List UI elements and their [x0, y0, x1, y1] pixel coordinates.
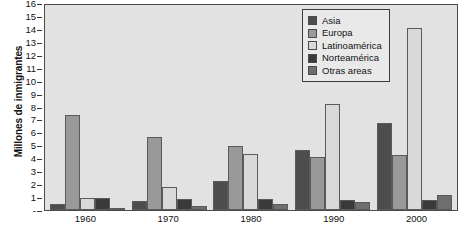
bar[interactable] — [273, 204, 288, 210]
bar[interactable] — [65, 115, 80, 210]
bar-group — [132, 5, 207, 210]
y-tick-mark — [37, 185, 42, 186]
legend-item-label: Otras areas — [322, 66, 372, 76]
bar[interactable] — [228, 146, 243, 210]
bar[interactable] — [177, 199, 192, 210]
y-tick-mark — [37, 172, 42, 173]
bar-groups — [45, 5, 457, 210]
y-tick-label: 9 — [18, 90, 36, 100]
y-tick-label: 4 — [18, 155, 36, 165]
chart-container: Millones de inmigrantes -123456789101112… — [0, 0, 463, 243]
y-tick-label: 15 — [18, 12, 36, 22]
bar[interactable] — [355, 202, 370, 210]
y-tick-label: 11 — [18, 64, 36, 74]
y-tick-mark — [37, 146, 42, 147]
legend-item-label: Norteamérica — [322, 53, 379, 63]
y-tick-label: 13 — [18, 38, 36, 48]
bar[interactable] — [110, 208, 125, 210]
bar[interactable] — [325, 104, 340, 210]
bar-group — [50, 5, 125, 210]
x-tick-label: 2000 — [382, 213, 452, 224]
y-tick-mark — [37, 82, 42, 83]
bar[interactable] — [295, 150, 310, 210]
bar[interactable] — [80, 198, 95, 210]
legend-item[interactable]: Norteamérica — [308, 52, 382, 64]
y-tick-mark — [37, 108, 42, 109]
y-tick-label: 5 — [18, 142, 36, 152]
legend-swatch-icon — [308, 41, 317, 50]
bar[interactable] — [437, 195, 452, 210]
legend-item[interactable]: Europa — [308, 27, 382, 39]
y-tick-label: 12 — [18, 51, 36, 61]
y-tick-label: 3 — [18, 167, 36, 177]
y-tick-label: 7 — [18, 116, 36, 126]
y-tick-mark — [37, 43, 42, 44]
legend-item-label: Europa — [322, 28, 353, 38]
bar[interactable] — [95, 198, 110, 210]
bar[interactable] — [213, 181, 228, 210]
bar[interactable] — [162, 187, 177, 210]
bar[interactable] — [407, 28, 422, 210]
bar[interactable] — [377, 123, 392, 210]
legend-item[interactable]: Asia — [308, 15, 382, 27]
y-tick-label: 16 — [18, 0, 36, 9]
legend: AsiaEuropaLatinoaméricaNorteaméricaOtras… — [302, 9, 390, 82]
bar[interactable] — [258, 199, 273, 210]
y-tick-mark — [37, 56, 42, 57]
y-axis-labels: -12345678910111213141516 — [18, 0, 42, 243]
bar[interactable] — [147, 137, 162, 210]
y-tick-label: - — [18, 206, 36, 216]
y-tick-label: 8 — [18, 103, 36, 113]
x-tick-label: 1990 — [299, 213, 369, 224]
bar[interactable] — [392, 155, 407, 210]
y-tick-mark — [37, 17, 42, 18]
y-tick-label: 10 — [18, 77, 36, 87]
y-tick-label: 6 — [18, 129, 36, 139]
y-tick-label: 2 — [18, 180, 36, 190]
legend-swatch-icon — [308, 16, 317, 25]
x-tick-label: 1970 — [133, 213, 203, 224]
x-axis-labels: 19601970198019902000 — [44, 213, 458, 233]
bar-group — [213, 5, 288, 210]
y-tick-label: 14 — [18, 25, 36, 35]
legend-item-label: Latinoamérica — [322, 41, 382, 51]
x-tick-label: 1980 — [216, 213, 286, 224]
y-tick-mark — [37, 120, 42, 121]
y-tick-label: 1 — [18, 193, 36, 203]
bar[interactable] — [192, 206, 207, 210]
y-tick-mark — [37, 4, 42, 5]
bar[interactable] — [422, 200, 437, 210]
y-tick-mark — [37, 133, 42, 134]
legend-item[interactable]: Latinoamérica — [308, 40, 382, 52]
legend-item[interactable]: Otras areas — [308, 65, 382, 77]
legend-swatch-icon — [308, 66, 317, 75]
bar[interactable] — [340, 200, 355, 210]
legend-swatch-icon — [308, 54, 317, 63]
y-tick-mark — [37, 198, 42, 199]
y-tick-mark — [37, 211, 42, 212]
legend-swatch-icon — [308, 29, 317, 38]
x-tick-label: 1960 — [50, 213, 120, 224]
y-tick-mark — [37, 30, 42, 31]
bar[interactable] — [310, 157, 325, 210]
bar[interactable] — [132, 201, 147, 210]
bar[interactable] — [243, 154, 258, 210]
y-tick-mark — [37, 69, 42, 70]
y-tick-mark — [37, 95, 42, 96]
legend-item-label: Asia — [322, 16, 340, 26]
bar[interactable] — [50, 204, 65, 210]
plot-area — [44, 4, 458, 211]
y-tick-mark — [37, 159, 42, 160]
